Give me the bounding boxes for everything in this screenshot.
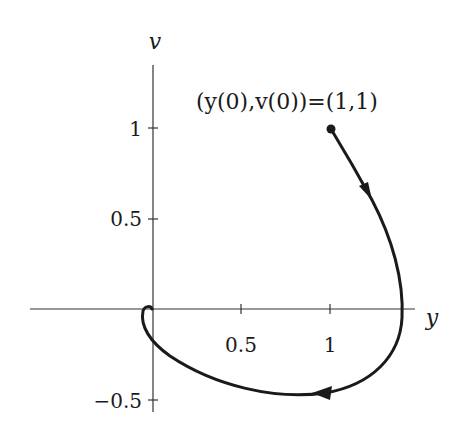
- trajectory-curve: [142, 129, 402, 395]
- phase-plot: 0.5 1 1 0.5 −0.5 y v (y(0),v(0))=(1,1): [0, 0, 461, 438]
- direction-arrow-icon: [312, 386, 332, 400]
- initial-condition-annotation: (y(0),v(0))=(1,1): [196, 89, 378, 114]
- y-axis-label: v: [149, 29, 162, 54]
- x-tick-label: 0.5: [225, 333, 257, 357]
- y-tick-label: 0.5: [110, 207, 142, 231]
- initial-point-marker: [327, 125, 336, 134]
- y-tick-label: 1: [129, 117, 142, 141]
- y-tick-label: −0.5: [93, 389, 142, 413]
- x-axis-label: y: [425, 305, 439, 330]
- x-tick-label: 1: [324, 333, 337, 357]
- direction-arrow-icon: [359, 182, 372, 200]
